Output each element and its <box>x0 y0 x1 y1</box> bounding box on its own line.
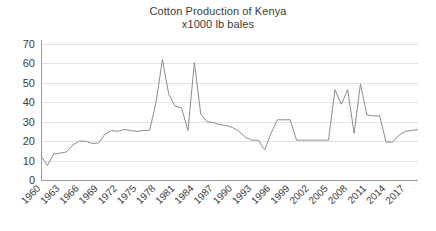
x-tick-label-2008: 2008 <box>326 182 350 206</box>
x-tick-label-1960: 1960 <box>19 182 43 206</box>
y-tick-label-60: 60 <box>23 57 35 69</box>
x-axis-tick-labels: 1960196319661969197219751978198119841987… <box>19 182 407 206</box>
data-series <box>41 60 418 166</box>
line-chart-plot: 010203040506070 196019631966196919721975… <box>0 0 436 231</box>
x-tick-label-1963: 1963 <box>38 182 62 206</box>
y-axis-tick-labels: 010203040506070 <box>23 38 35 186</box>
x-tick-label-1981: 1981 <box>153 182 177 206</box>
x-tick-label-1975: 1975 <box>115 182 139 206</box>
series-line-cotton-production <box>41 60 418 166</box>
y-tick-label-70: 70 <box>23 38 35 50</box>
x-tick-label-1999: 1999 <box>268 182 292 206</box>
x-tick-label-2002: 2002 <box>287 182 311 206</box>
y-tick-label-50: 50 <box>23 77 35 89</box>
x-tick-label-1993: 1993 <box>230 182 254 206</box>
x-tick-label-2014: 2014 <box>364 182 388 206</box>
x-tick-label-1969: 1969 <box>76 182 100 206</box>
x-tick-label-1978: 1978 <box>134 182 158 206</box>
axis-lines <box>42 40 419 181</box>
x-tick-label-1996: 1996 <box>249 182 273 206</box>
y-tick-label-20: 20 <box>23 135 35 147</box>
y-tick-label-30: 30 <box>23 116 35 128</box>
x-tick-label-1966: 1966 <box>57 182 81 206</box>
x-tick-label-2017: 2017 <box>383 182 407 206</box>
x-tick-label-1972: 1972 <box>96 182 120 206</box>
x-tick-label-1990: 1990 <box>211 182 235 206</box>
gridlines <box>41 45 418 162</box>
x-tick-label-1984: 1984 <box>172 182 196 206</box>
y-tick-label-40: 40 <box>23 96 35 108</box>
x-tick-label-1987: 1987 <box>191 182 215 206</box>
y-tick-label-10: 10 <box>23 155 35 167</box>
x-tick-label-2011: 2011 <box>345 182 368 205</box>
x-tick-label-2005: 2005 <box>306 182 330 206</box>
chart-container: Cotton Production of Kenya x1000 lb bale… <box>0 0 436 231</box>
